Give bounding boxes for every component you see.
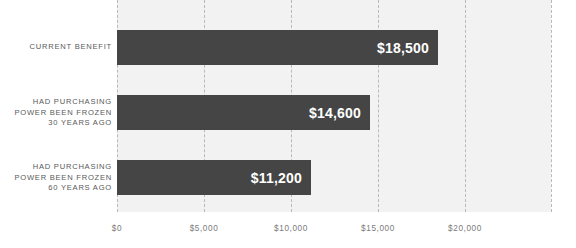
xtick-label-5000: $5,000 (190, 224, 219, 233)
bar-frozen-30-years[interactable]: $14,600 (117, 95, 370, 130)
bar-frozen-60-years[interactable]: $11,200 (117, 160, 311, 195)
bar-value-frozen-30-years: $14,600 (309, 105, 370, 121)
xtick-label-15000: $15,000 (361, 224, 395, 233)
category-label-frozen-30-years: HAD PURCHASING POWER BEEN FROZEN 30 YEAR… (0, 97, 112, 129)
bar-current-benefit[interactable]: $18,500 (117, 30, 438, 65)
category-label-frozen-60-years: HAD PURCHASING POWER BEEN FROZEN 60 YEAR… (0, 162, 112, 194)
xtick-label-10000: $10,000 (274, 224, 308, 233)
plot-area: $18,500 $14,600 $11,200 (117, 0, 551, 212)
gridline-20000 (465, 0, 466, 212)
category-axis: CURRENT BENEFIT HAD PURCHASING POWER BEE… (0, 0, 112, 212)
bar-value-current-benefit: $18,500 (377, 40, 438, 56)
xtick-label-20000: $20,000 (448, 224, 482, 233)
bar-chart: CURRENT BENEFIT HAD PURCHASING POWER BEE… (0, 0, 576, 248)
xtick-label-0: $0 (112, 224, 122, 233)
x-axis: $0 $5,000 $10,000 $15,000 $20,000 (0, 212, 576, 248)
gridline-25000 (551, 0, 552, 212)
bar-value-frozen-60-years: $11,200 (251, 170, 311, 186)
category-label-current-benefit: CURRENT BENEFIT (0, 42, 112, 53)
